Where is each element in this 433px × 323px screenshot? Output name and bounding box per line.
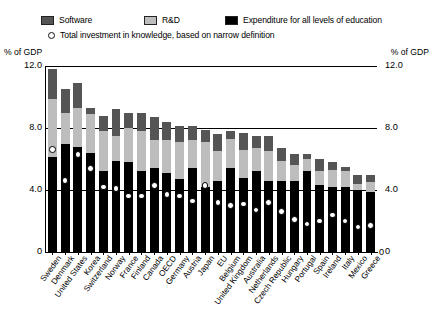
bar-segment-software (201, 130, 210, 142)
bar-segment-rd (341, 171, 350, 187)
chart-legend: Software R&D Expenditure for all levels … (0, 0, 433, 48)
bar-belgium[interactable] (226, 131, 235, 252)
bar-segment-rd (290, 165, 299, 181)
bar-segment-rd (277, 161, 286, 181)
bar-united-states[interactable] (73, 83, 82, 252)
narrow-definition-marker (202, 182, 209, 189)
narrow-definition-marker (215, 199, 222, 206)
legend-swatch-education (225, 16, 238, 25)
chart-root: Software R&D Expenditure for all levels … (0, 0, 433, 323)
bar-segment-rd (150, 140, 159, 168)
bar-segment-education (48, 157, 57, 252)
narrow-definition-marker (49, 146, 56, 153)
bar-segment-rd (61, 113, 70, 144)
bar-segment-software (99, 116, 108, 132)
bar-segment-software (124, 113, 133, 129)
legend-circle-icon (48, 32, 55, 39)
bar-segment-software (226, 131, 235, 139)
bar-sweden[interactable] (48, 69, 57, 252)
bar-eu[interactable] (213, 134, 222, 252)
bar-segment-software (252, 136, 261, 148)
bar-segment-software (175, 126, 184, 142)
bar-segment-software (48, 69, 57, 98)
legend-swatch-software (41, 16, 54, 25)
bar-segment-rd (264, 151, 273, 180)
bar-segment-rd (188, 140, 197, 168)
bar-segment-rd (162, 140, 171, 173)
legend-label-narrow-definition: Total investment in knowledge, based on … (60, 31, 275, 40)
legend-label-software: Software (59, 16, 92, 25)
bar-segment-software (61, 89, 70, 112)
bar-segment-rd (73, 108, 82, 147)
y-tick-left-4.0: 4.0 (8, 185, 42, 194)
bar-segment-software (73, 83, 82, 108)
bar-segment-rd (328, 170, 337, 187)
narrow-definition-marker (329, 212, 336, 219)
bar-segment-software (150, 117, 159, 140)
narrow-definition-marker (278, 208, 285, 215)
bar-segment-rd (201, 142, 210, 187)
narrow-definition-marker (189, 198, 196, 205)
bar-segment-software (188, 126, 197, 140)
y-axis-caption-left: % of GDP (4, 47, 42, 57)
narrow-definition-marker (367, 222, 374, 229)
bar-segment-software (264, 136, 273, 152)
bar-denmark[interactable] (61, 89, 70, 252)
narrow-definition-marker (100, 184, 107, 191)
bar-segment-rd (175, 142, 184, 179)
bar-segment-rd (315, 171, 324, 185)
legend-item-rd: R&D (144, 16, 180, 25)
legend-label-education: Expenditure for all levels of education (243, 16, 382, 25)
bar-segment-rd (239, 150, 248, 178)
bar-segment-rd (86, 114, 95, 153)
plot-area (46, 66, 377, 252)
narrow-definition-marker (265, 199, 272, 206)
narrow-definition-marker (227, 202, 234, 209)
y-axis-caption-right: % of GDP (391, 47, 429, 57)
y-tick-right-8.0: 8.0 (385, 123, 398, 132)
bar-segment-rd (99, 131, 108, 171)
legend-label-rd: R&D (162, 16, 180, 25)
bar-segment-rd (124, 128, 133, 162)
bar-series-group (46, 66, 377, 252)
bar-segment-software (290, 154, 299, 165)
narrow-definition-marker (151, 182, 158, 189)
x-axis-zero-label: 0 (379, 247, 384, 257)
bar-segment-rd (366, 182, 375, 191)
bar-segment-software (277, 148, 286, 160)
bar-segment-software (328, 162, 337, 170)
y-tick-right-4.0: 4.0 (385, 185, 398, 194)
bar-segment-rd (252, 148, 261, 171)
narrow-definition-marker (113, 185, 120, 192)
bar-segment-software (239, 133, 248, 150)
bar-norway[interactable] (112, 109, 121, 252)
y-tick-left-0: 0 (8, 247, 42, 256)
bar-segment-rd (226, 139, 235, 168)
bar-segment-software (366, 175, 375, 183)
narrow-definition-marker (291, 216, 298, 223)
bar-segment-rd (303, 159, 312, 171)
bar-austria[interactable] (188, 126, 197, 252)
bar-united-kingdom[interactable] (239, 133, 248, 252)
x-axis-tick-labels: SwedenDenmarkUnited StatesKoreaSwitzerla… (46, 254, 386, 323)
y-tick-left-8.0: 8.0 (8, 123, 42, 132)
y-tick-right-12.0: 12.0 (385, 61, 403, 70)
bar-segment-software (112, 109, 121, 135)
bar-segment-software (137, 113, 146, 132)
narrow-definition-marker (75, 151, 82, 158)
bar-segment-software (353, 175, 362, 184)
legend-item-software: Software (41, 16, 92, 25)
legend-swatch-rd (144, 16, 157, 25)
narrow-definition-marker (87, 165, 94, 172)
narrow-definition-marker (164, 191, 171, 198)
legend-item-education: Expenditure for all levels of education (225, 16, 382, 25)
bar-segment-rd (112, 136, 121, 161)
bar-segment-software (315, 159, 324, 171)
bar-segment-rd (137, 131, 146, 171)
bar-finland[interactable] (137, 113, 146, 252)
bar-oecd[interactable] (162, 122, 171, 252)
bar-segment-software (162, 122, 171, 141)
bar-segment-software (213, 134, 222, 151)
bar-segment-rd (213, 151, 222, 180)
legend-item-narrow-definition: Total investment in knowledge, based on … (48, 31, 275, 40)
